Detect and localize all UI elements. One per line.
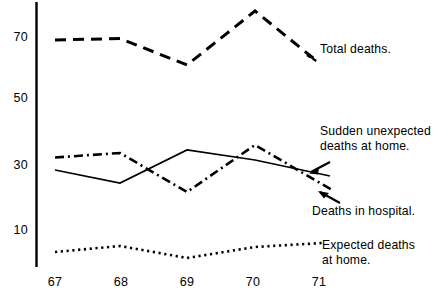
annotation-sudden-unexpected-deaths: Sudden unexpected deaths at home. — [320, 124, 431, 154]
y-tick-label-10: 10 — [2, 223, 28, 237]
annotation-total-deaths: Total deaths. — [320, 42, 391, 57]
x-tick-label-71: 71 — [304, 275, 334, 289]
y-tick-label-50: 50 — [2, 91, 28, 105]
annotation-expected-deaths: Expected deaths at home. — [322, 238, 415, 268]
annotation-deaths-in-hospital: Deaths in hospital. — [312, 204, 415, 219]
y-tick-label-70: 70 — [2, 30, 28, 44]
line-chart: 70 50 30 10 67 68 69 70 71 Total deaths.… — [0, 0, 435, 296]
y-tick-label-30: 30 — [2, 158, 28, 172]
series-expected-deaths-line — [55, 243, 322, 258]
series-deaths-in-hospital-line — [55, 145, 332, 192]
series-total-deaths-line — [55, 11, 318, 65]
arrow-deaths-in-hospital-icon — [318, 191, 340, 203]
x-tick-label-67: 67 — [40, 275, 70, 289]
x-tick-label-69: 69 — [172, 275, 202, 289]
x-tick-label-70: 70 — [238, 275, 268, 289]
arrow-sudden-unexpected-icon — [309, 162, 330, 175]
x-tick-label-68: 68 — [106, 275, 136, 289]
